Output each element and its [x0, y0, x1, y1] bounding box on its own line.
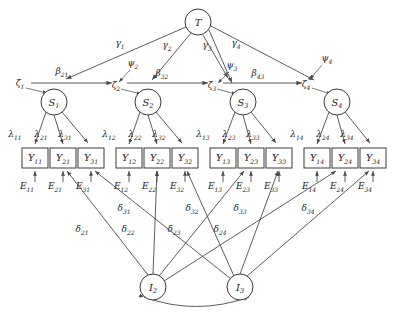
delta-label-24: δ24 [213, 224, 226, 236]
delta-label-23: δ23 [167, 224, 180, 236]
beta-label-43: β43 [251, 68, 265, 80]
zeta-label-4: ζ4 [302, 79, 311, 91]
lambda-label-22: λ22 [127, 129, 142, 141]
lambda-label-32: λ32 [151, 129, 166, 141]
error-label-31: E31 [75, 181, 90, 193]
zeta-label-3: ζ3 [208, 80, 217, 92]
lambda-label-23: λ23 [221, 129, 236, 141]
lambda-label-13: λ13 [195, 129, 210, 141]
delta-label-34: δ34 [301, 203, 314, 215]
lambda-label-14: λ14 [289, 129, 304, 141]
lambda-label-33: λ33 [245, 129, 260, 141]
lambda-label-12: λ12 [101, 129, 116, 141]
error-label-32: E32 [169, 181, 184, 193]
psi-variance-pointers [119, 65, 322, 83]
zeta-arrow-1 [26, 88, 47, 93]
zeta-label-1: ζ1 [16, 78, 25, 90]
delta-label-32: δ32 [185, 203, 198, 215]
diagram-canvas: TS1S2S3S4I2I3Y11Y21Y31Y12Y22Y32Y13Y23Y33… [0, 0, 397, 314]
psi-label-3: ψ3 [227, 60, 238, 72]
gamma-label-1: γ1 [115, 38, 124, 50]
gamma-paths [66, 26, 314, 83]
delta-label-21: δ21 [75, 224, 88, 236]
labels-layer: γ1γ2γ3γ4ψ2ψ3ψ4ζ1ζ2ζ3ζ4β21β32β43λ11λ21λ31… [7, 38, 372, 236]
error-label-22: E22 [141, 181, 156, 193]
error-paths [35, 171, 373, 182]
error-label-34: E34 [357, 181, 372, 193]
error-label-33: E33 [263, 181, 278, 193]
delta-paths-i3 [95, 171, 369, 279]
error-label-24: E24 [329, 181, 344, 193]
zeta-disturbance-paths [26, 88, 331, 94]
psi-pointer-2 [119, 70, 130, 82]
lambda-label-24: λ24 [315, 129, 330, 141]
error-label-11: E11 [19, 181, 34, 193]
lambda-label-34: λ34 [339, 129, 354, 141]
error-label-14: E14 [301, 181, 316, 193]
gamma-path-1 [66, 27, 186, 79]
gamma-label-3: γ3 [202, 40, 211, 52]
lambda-label-11: λ11 [7, 129, 21, 141]
psi-label-2: ψ2 [128, 58, 139, 70]
lambda-label-31: λ31 [57, 129, 71, 141]
nodes-layer: TS1S2S3S4I2I3Y11Y21Y31Y12Y22Y32Y13Y23Y33… [22, 9, 386, 300]
error-label-23: E23 [235, 181, 250, 193]
error-label-21: E21 [47, 181, 62, 193]
beta-label-21: β21 [55, 66, 69, 78]
delta-paths-i2 [67, 171, 336, 281]
path-diagram: TS1S2S3S4I2I3Y11Y21Y31Y12Y22Y32Y13Y23Y33… [0, 0, 397, 314]
gamma-path-4 [209, 30, 232, 83]
error-label-12: E12 [113, 181, 128, 193]
delta-label-22: δ22 [121, 224, 134, 236]
psi-label-4: ψ4 [322, 53, 333, 65]
gamma-label-4: γ4 [231, 38, 240, 50]
gamma-label-2: γ2 [162, 40, 171, 52]
psi-pointer-4 [310, 65, 322, 79]
delta-label-33: δ33 [233, 203, 246, 215]
beta-label-32: β32 [155, 68, 169, 80]
delta-label-31: δ31 [117, 203, 130, 215]
error-label-13: E13 [207, 181, 222, 193]
lambda-label-21: λ21 [33, 129, 47, 141]
